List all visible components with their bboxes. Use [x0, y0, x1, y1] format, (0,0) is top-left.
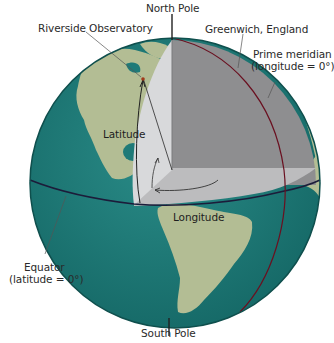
equator-sublabel: (latitude = 0°)	[9, 273, 83, 285]
south-pole-label: South Pole	[141, 327, 196, 339]
observatory-label: Riverside Observatory	[38, 22, 153, 34]
prime-meridian-sublabel: (longitude = 0°)	[251, 60, 334, 72]
greenwich-label: Greenwich, England	[205, 23, 308, 35]
longitude-label: Longitude	[173, 211, 224, 223]
prime-meridian-label: Prime meridian	[253, 48, 332, 60]
latitude-label: Latitude	[103, 128, 145, 140]
north-pole-label: North Pole	[146, 2, 199, 14]
equator-label: Equator	[24, 261, 65, 273]
observatory-marker	[141, 77, 145, 81]
